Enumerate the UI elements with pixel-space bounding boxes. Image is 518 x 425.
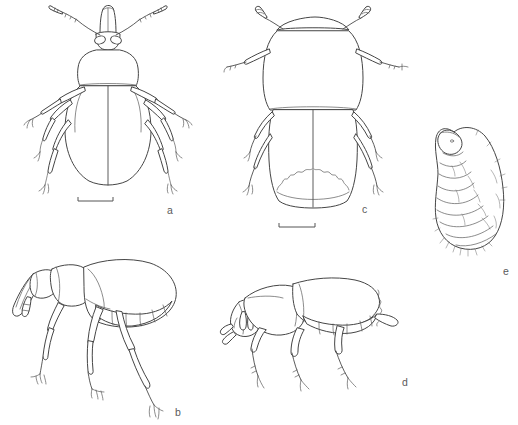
figure-d-beetle-lateral	[215, 250, 430, 400]
panel-label-e: e	[503, 266, 509, 277]
figure-b-weevil-lateral	[0, 245, 210, 425]
figure-c-beetle-dorsal	[225, 0, 415, 240]
figure-a-weevil-dorsal	[0, 0, 230, 215]
panel-label-a: a	[167, 205, 173, 216]
scale-bar-a	[78, 197, 113, 201]
panel-label-b: b	[175, 407, 181, 418]
illustration-plate: a b c d e	[0, 0, 518, 425]
panel-label-d: d	[402, 377, 408, 388]
panel-label-c: c	[362, 204, 367, 215]
figure-e-larva-lateral	[430, 110, 518, 265]
scale-bar-c	[279, 223, 315, 227]
